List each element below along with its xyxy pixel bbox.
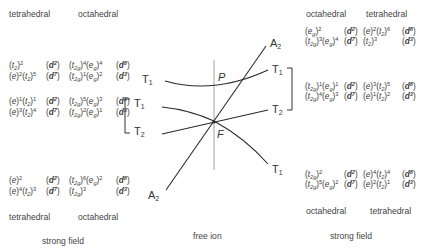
point-F-marker (212, 120, 215, 123)
term-right-T1-lower: T1 (272, 164, 283, 175)
term-left-T1-lower: T1 (134, 98, 145, 109)
term-right-T2: T2 (272, 104, 283, 115)
right-bracket (287, 68, 292, 110)
line-A2 (166, 46, 266, 190)
term-left-T2: T2 (134, 126, 145, 137)
left-bracket (125, 99, 130, 133)
correlation-diagram (0, 0, 423, 251)
center-caption: free ion (193, 231, 222, 241)
term-right-T1-upper: T1 (272, 64, 283, 75)
curve-T1-lower (162, 107, 268, 164)
point-P-label: P (218, 71, 225, 83)
term-left-A2: A2 (148, 190, 159, 201)
term-left-T1-upper: T1 (142, 74, 153, 85)
point-F-label: F (217, 128, 224, 140)
curve-T1-upper (165, 70, 268, 86)
term-right-A2: A2 (270, 38, 281, 49)
